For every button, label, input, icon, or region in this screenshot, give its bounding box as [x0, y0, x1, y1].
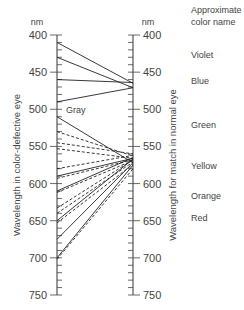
left-axis-unit: nm — [31, 17, 44, 27]
mapping-line — [57, 169, 133, 260]
left-tick-label: 550 — [29, 140, 47, 152]
right-tick-label: 400 — [143, 29, 161, 41]
left-tick-label: 400 — [29, 29, 47, 41]
right-tick-label: 650 — [143, 215, 161, 227]
mapping-line — [57, 80, 133, 83]
mapping-line — [57, 149, 133, 159]
left-axis-title: Wavelength in color-defective eye — [11, 94, 22, 236]
color-name-red: Red — [191, 213, 208, 223]
mapping-line — [57, 42, 133, 83]
color-name-yellow: Yellow — [191, 161, 217, 171]
right-tick-label: 600 — [143, 178, 161, 190]
left-tick-label: 450 — [29, 66, 47, 78]
color-name-header: color name — [191, 17, 236, 27]
mapping-line — [57, 88, 133, 102]
color-name-blue: Blue — [191, 76, 209, 86]
wavelength-match-diagram: 4004505005506006507007504004505005506006… — [0, 0, 244, 310]
color-name-violet: Violet — [191, 50, 214, 60]
right-axis-title: Wavelength for match in normal eye — [167, 89, 178, 241]
left-tick-label: 700 — [29, 252, 47, 264]
left-tick-label: 500 — [29, 103, 47, 115]
right-tick-label: 750 — [143, 289, 161, 301]
color-name-green: Green — [191, 120, 216, 130]
right-tick-label: 450 — [143, 66, 161, 78]
right-tick-label: 550 — [143, 140, 161, 152]
gray-label: Gray — [66, 105, 86, 115]
left-tick-label: 750 — [29, 289, 47, 301]
right-tick-label: 700 — [143, 252, 161, 264]
color-name-orange: Orange — [191, 191, 221, 201]
left-tick-label: 600 — [29, 178, 47, 190]
right-tick-label: 500 — [143, 103, 161, 115]
left-tick-label: 650 — [29, 215, 47, 227]
right-axis-unit: nm — [142, 17, 155, 27]
color-name-header: Approximate — [191, 5, 242, 15]
mapping-line — [57, 57, 133, 87]
mapping-line — [57, 143, 133, 154]
mapping-line — [57, 117, 133, 163]
